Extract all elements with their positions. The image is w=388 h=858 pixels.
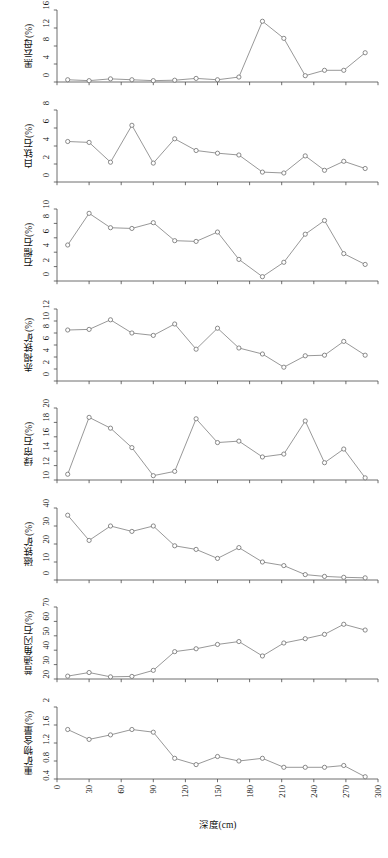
data-point-marker <box>322 574 326 578</box>
data-point-marker <box>194 547 198 551</box>
data-point-marker <box>322 168 326 172</box>
data-point-marker <box>260 170 264 174</box>
data-point-marker <box>108 675 112 679</box>
data-point-marker <box>151 523 155 527</box>
data-point-marker <box>108 160 112 164</box>
data-point-marker <box>87 737 91 741</box>
panel-plot-area <box>0 10 388 122</box>
data-point-marker <box>215 151 219 155</box>
data-point-marker <box>215 230 219 234</box>
data-point-marker <box>194 148 198 152</box>
data-point-marker <box>237 345 241 349</box>
x-axis-title: 深度(cm) <box>57 817 378 831</box>
data-point-marker <box>363 575 367 579</box>
data-point-marker <box>322 353 326 357</box>
data-point-marker <box>363 353 367 357</box>
data-point-marker <box>342 159 346 163</box>
panel-4: 024681012赤褐铁矿(%) <box>0 309 388 421</box>
data-point-marker <box>363 628 367 632</box>
data-point-marker <box>215 440 219 444</box>
data-point-marker <box>237 545 241 549</box>
data-point-marker <box>260 559 264 563</box>
data-point-marker <box>194 347 198 351</box>
data-point-marker <box>173 650 177 654</box>
data-point-marker <box>194 762 198 766</box>
y-tick-label: 12 <box>41 300 51 309</box>
series-line <box>68 213 365 276</box>
panel-plot-area <box>0 110 388 222</box>
data-point-marker <box>322 68 326 72</box>
data-point-marker <box>130 727 134 731</box>
data-point-marker <box>215 642 219 646</box>
data-point-marker <box>173 136 177 140</box>
data-point-marker <box>173 78 177 82</box>
y-axis-title: 白钛石(%) <box>22 110 36 182</box>
data-point-marker <box>151 474 155 478</box>
data-point-marker <box>342 68 346 72</box>
y-tick-label: 10 <box>41 200 51 209</box>
y-tick-label: 8 <box>41 101 51 105</box>
data-point-marker <box>173 469 177 473</box>
data-point-marker <box>303 637 307 641</box>
data-point-marker <box>282 452 286 456</box>
panel-plot-area <box>0 508 388 620</box>
data-point-marker <box>130 226 134 230</box>
data-point-marker <box>66 243 70 247</box>
data-point-marker <box>151 161 155 165</box>
data-point-marker <box>151 730 155 734</box>
data-point-marker <box>363 51 367 55</box>
data-point-marker <box>87 538 91 542</box>
data-point-marker <box>130 330 134 334</box>
data-point-marker <box>151 79 155 83</box>
panel-plot-area <box>0 707 388 819</box>
data-point-marker <box>130 529 134 533</box>
data-point-marker <box>342 763 346 767</box>
data-point-marker <box>282 170 286 174</box>
data-point-marker <box>237 439 241 443</box>
data-point-marker <box>260 455 264 459</box>
data-point-marker <box>215 326 219 330</box>
panel-plot-area <box>0 607 388 719</box>
data-point-marker <box>282 260 286 264</box>
y-axis-title: 磁铁矿(%) <box>22 508 36 580</box>
panel-8: 0.40.81.21.62030609012015018021024027030… <box>0 707 388 819</box>
data-point-marker <box>282 765 286 769</box>
data-point-marker <box>66 472 70 476</box>
data-point-marker <box>130 123 134 127</box>
data-point-marker <box>108 523 112 527</box>
data-point-marker <box>363 476 367 480</box>
data-point-marker <box>237 639 241 643</box>
panel-6: 010203040磁铁矿(%) <box>0 508 388 620</box>
data-point-marker <box>342 575 346 579</box>
data-point-marker <box>87 415 91 419</box>
y-tick-label: 20 <box>41 399 51 408</box>
data-point-marker <box>108 426 112 430</box>
panel-plot-area <box>0 309 388 421</box>
data-point-marker <box>342 622 346 626</box>
y-axis-title: 黑云母(%) <box>22 10 36 82</box>
data-point-marker <box>282 563 286 567</box>
data-point-marker <box>260 756 264 760</box>
y-axis-title: 石榴石(%) <box>22 209 36 281</box>
data-point-marker <box>342 339 346 343</box>
panel-1: 0481216黑云母(%) <box>0 10 388 122</box>
panel-plot-area <box>0 408 388 520</box>
data-point-marker <box>282 365 286 369</box>
data-point-marker <box>282 641 286 645</box>
y-tick-label: 40 <box>41 499 51 508</box>
data-point-marker <box>130 78 134 82</box>
data-point-marker <box>342 447 346 451</box>
data-point-marker <box>322 218 326 222</box>
data-point-marker <box>66 78 70 82</box>
series-line <box>68 624 365 677</box>
data-point-marker <box>66 139 70 143</box>
data-point-marker <box>87 140 91 144</box>
data-point-marker <box>66 674 70 678</box>
data-point-marker <box>194 647 198 651</box>
y-axis-title: 赤褐铁矿(%) <box>22 309 36 381</box>
data-point-marker <box>173 543 177 547</box>
data-point-marker <box>108 732 112 736</box>
data-point-marker <box>237 758 241 762</box>
data-point-marker <box>363 774 367 778</box>
data-point-marker <box>303 232 307 236</box>
